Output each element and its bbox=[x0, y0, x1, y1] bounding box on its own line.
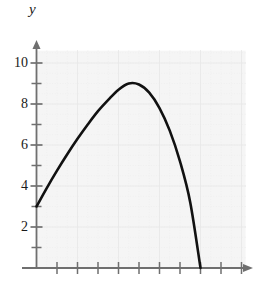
plot-area bbox=[0, 0, 263, 283]
shaded-area-under-curve bbox=[37, 51, 246, 268]
chart-figure: y 10 8 6 4 2 bbox=[0, 0, 263, 283]
